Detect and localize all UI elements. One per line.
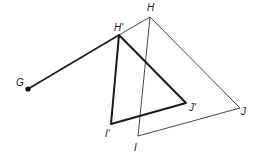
- dilation-diagram: G H I J H' I' J': [0, 0, 253, 153]
- label-h: H: [147, 2, 155, 13]
- label-iprime: I': [105, 128, 111, 139]
- label-hprime: H': [114, 22, 124, 33]
- diagram-canvas: G H I J H' I' J': [0, 0, 253, 153]
- segment-g-hprime: [28, 35, 119, 89]
- label-g: G: [16, 77, 24, 88]
- label-j: J: [240, 106, 247, 117]
- point-g: [25, 86, 30, 91]
- label-i: I: [134, 142, 137, 153]
- triangle-hij: [138, 17, 240, 136]
- label-jprime: J': [188, 102, 197, 113]
- triangle-hprime-iprime-jprime: [111, 35, 186, 124]
- segment-hprime-h: [119, 17, 150, 35]
